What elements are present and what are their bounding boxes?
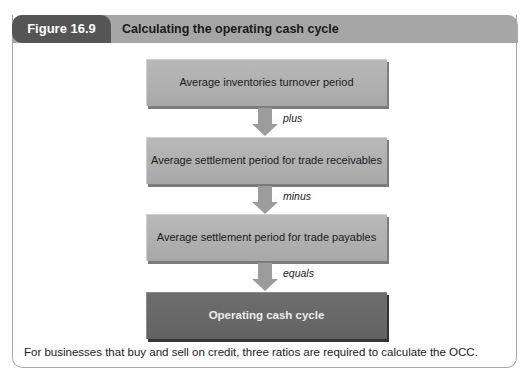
figure-number: Figure 16.9 bbox=[12, 15, 111, 43]
figure-caption: For businesses that buy and sell on cred… bbox=[24, 346, 478, 358]
down-arrow-icon bbox=[252, 186, 278, 214]
operator-equals: equals bbox=[283, 267, 314, 279]
operator-plus: plus bbox=[283, 112, 302, 124]
step-inventories-turnover: Average inventories turnover period bbox=[146, 59, 387, 106]
operator-minus: minus bbox=[283, 190, 311, 202]
down-arrow-icon bbox=[252, 263, 278, 291]
result-operating-cash-cycle: Operating cash cycle bbox=[146, 292, 387, 339]
figure-title: Calculating the operating cash cycle bbox=[122, 15, 339, 43]
step-receivables-settlement: Average settlement period for trade rece… bbox=[146, 137, 387, 184]
step-payables-settlement: Average settlement period for trade paya… bbox=[146, 214, 387, 261]
down-arrow-icon bbox=[252, 108, 278, 136]
